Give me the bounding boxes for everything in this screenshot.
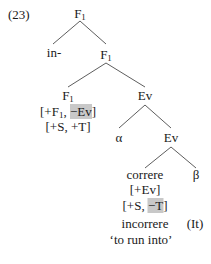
node-ev-upper: Ev <box>138 89 152 103</box>
node-alpha: α <box>116 131 123 145</box>
node-f1-low: F1 <box>62 89 74 103</box>
node-root-f1: F1 <box>74 7 86 21</box>
highlight-minus-t: −T <box>148 198 163 213</box>
f1-features-line1: [+F1, −Ev] <box>40 105 96 119</box>
verb-features-line2: [+S, −T] <box>122 199 167 213</box>
verb-features-line1: [+Ev] <box>130 183 160 197</box>
gloss-word: incorrere <box>122 217 169 231</box>
highlight-minus-ev: −Ev <box>70 104 92 119</box>
translation: ‘to run into’ <box>110 233 173 247</box>
node-f1-mid: F1 <box>100 48 112 62</box>
tree-branches <box>0 0 211 264</box>
node-prefix-in: in- <box>47 46 61 60</box>
example-number: (23) <box>8 8 30 22</box>
f1-features-line2: [+S, +T] <box>46 120 91 134</box>
node-ev-lower: Ev <box>164 131 178 145</box>
node-verb-correre: correre <box>127 168 164 182</box>
node-beta: β <box>193 168 200 182</box>
language-tag: (It) <box>187 217 204 231</box>
